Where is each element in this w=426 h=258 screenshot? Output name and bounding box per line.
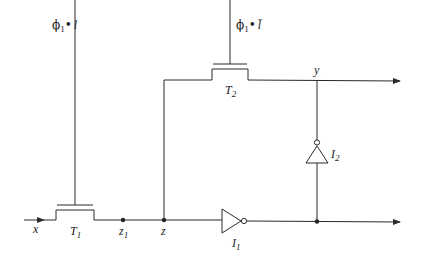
label-i2: I2 xyxy=(330,147,340,163)
main-wire-lower xyxy=(94,218,222,222)
label-t2: T2 xyxy=(225,83,237,99)
clock-label-t1: ϕ1•l xyxy=(52,18,78,34)
inverter-i2 xyxy=(306,80,328,221)
output-wire-lower xyxy=(247,219,400,223)
latch-circuit-diagram: ϕ1•l ϕ1•l̄ T1 T2 I1 I2 x z1 z y xyxy=(0,0,426,258)
transistor-t2 xyxy=(212,0,248,80)
output-wire-y xyxy=(248,80,400,81)
feedback-wire-z xyxy=(164,80,212,220)
node-z1-dot xyxy=(121,218,125,222)
label-z1: z1 xyxy=(118,224,128,240)
label-y: y xyxy=(313,63,320,77)
inverter-i1 xyxy=(222,209,247,233)
label-z: z xyxy=(160,224,166,238)
label-i1: I1 xyxy=(231,236,241,252)
label-x: x xyxy=(32,222,39,236)
label-t1: T1 xyxy=(70,224,81,240)
clock-label-t2: ϕ1•l̄ xyxy=(236,18,262,34)
